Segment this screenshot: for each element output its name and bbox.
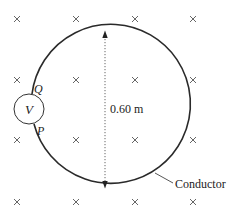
field-cross-icon	[73, 16, 79, 22]
magnetic-field-loop-diagram: V Q P 0.60 m Conductor	[0, 0, 239, 214]
field-cross-icon	[190, 77, 196, 83]
arrowhead-up-icon	[102, 31, 107, 39]
diameter-label: 0.60 m	[110, 102, 144, 116]
field-cross-icon	[14, 137, 20, 143]
voltmeter: V	[14, 94, 44, 124]
field-cross-icon	[190, 199, 196, 205]
field-cross-icon	[132, 77, 138, 83]
terminal-label-q: Q	[34, 82, 43, 96]
field-cross-icon	[190, 137, 196, 143]
conductor-label: Conductor	[175, 177, 226, 191]
field-cross-icon	[190, 16, 196, 22]
field-cross-icon	[73, 137, 79, 143]
conductor-leader-line	[155, 173, 173, 183]
terminal-label-p: P	[36, 124, 45, 138]
diameter-dimension	[102, 31, 107, 189]
arrowhead-down-icon	[102, 181, 107, 189]
field-cross-icon	[132, 16, 138, 22]
field-cross-icon	[14, 77, 20, 83]
field-cross-icon	[73, 199, 79, 205]
field-cross-icon	[14, 199, 20, 205]
field-cross-icon	[14, 16, 20, 22]
field-cross-icon	[73, 77, 79, 83]
field-cross-icon	[132, 199, 138, 205]
field-cross-icon	[132, 137, 138, 143]
